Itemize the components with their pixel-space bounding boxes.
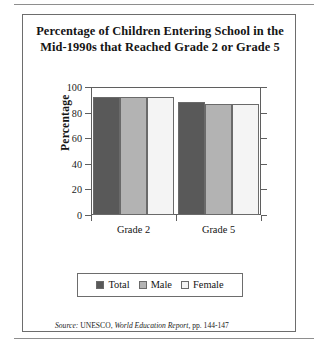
bar-male: [120, 97, 147, 215]
legend-item: Female: [181, 279, 224, 290]
bar-female: [147, 97, 174, 215]
x-axis-tick: [176, 215, 177, 221]
figure-container: Percentage of Children Entering School i…: [22, 14, 296, 332]
source-prefix: Source:: [55, 321, 78, 330]
y-axis-tick-label: 0: [77, 210, 82, 221]
y-axis-tick-label: 80: [72, 107, 82, 118]
x-axis-tick: [91, 215, 92, 221]
y-axis-tick-right: [261, 87, 267, 88]
y-axis-tick: [85, 113, 91, 114]
legend-swatch-total: [96, 281, 104, 289]
bar-male: [205, 104, 232, 215]
bar-total: [93, 97, 120, 215]
chart-title-line-2: Mid-1990s that Reached Grade 2 or Grade …: [33, 39, 287, 55]
legend-label-total: Total: [108, 279, 129, 290]
y-axis-tick-right: [261, 138, 267, 139]
source-note: Source: UNESCO, World Education Report, …: [55, 321, 229, 330]
legend-item: Total: [96, 279, 129, 290]
y-axis-tick-right: [261, 164, 267, 165]
legend-swatch-male: [139, 281, 147, 289]
source-publication: World Education Report,: [114, 321, 190, 330]
chart-title-line-1: Percentage of Children Entering School i…: [33, 23, 287, 39]
bar-total: [178, 102, 205, 215]
chart-legend: Total Male Female: [77, 273, 243, 297]
y-axis-tick-label: 100: [67, 82, 82, 93]
source-pages: pp. 144-147: [192, 321, 229, 330]
bar-group: [91, 87, 176, 215]
page-top-rule: [14, 4, 314, 5]
source-organization: UNESCO,: [80, 321, 112, 330]
legend-swatch-female: [181, 281, 189, 289]
x-axis-category-label: Grade 2: [117, 224, 150, 235]
y-axis-tick-right: [261, 189, 267, 190]
legend-item: Male: [139, 279, 172, 290]
x-axis-tick: [261, 215, 262, 221]
legend-label-male: Male: [151, 279, 172, 290]
y-axis-tick-label: 40: [72, 158, 82, 169]
y-axis-tick: [85, 138, 91, 139]
bar-groups: [91, 87, 261, 215]
page-bottom-rule: [14, 338, 314, 339]
y-axis-tick: [85, 189, 91, 190]
plot-area: 020406080100Grade 2Grade 5: [91, 87, 261, 215]
legend-label-female: Female: [193, 279, 224, 290]
bar-group: [176, 87, 261, 215]
y-axis-tick-right: [261, 113, 267, 114]
x-axis-category-label: Grade 5: [202, 224, 235, 235]
y-axis-tick-label: 20: [72, 184, 82, 195]
y-axis-tick: [85, 164, 91, 165]
chart-title: Percentage of Children Entering School i…: [33, 23, 287, 55]
y-axis-tick-label: 60: [72, 133, 82, 144]
y-axis-tick: [85, 87, 91, 88]
bar-female: [232, 104, 259, 215]
y-axis-label: Percentage: [59, 94, 72, 151]
